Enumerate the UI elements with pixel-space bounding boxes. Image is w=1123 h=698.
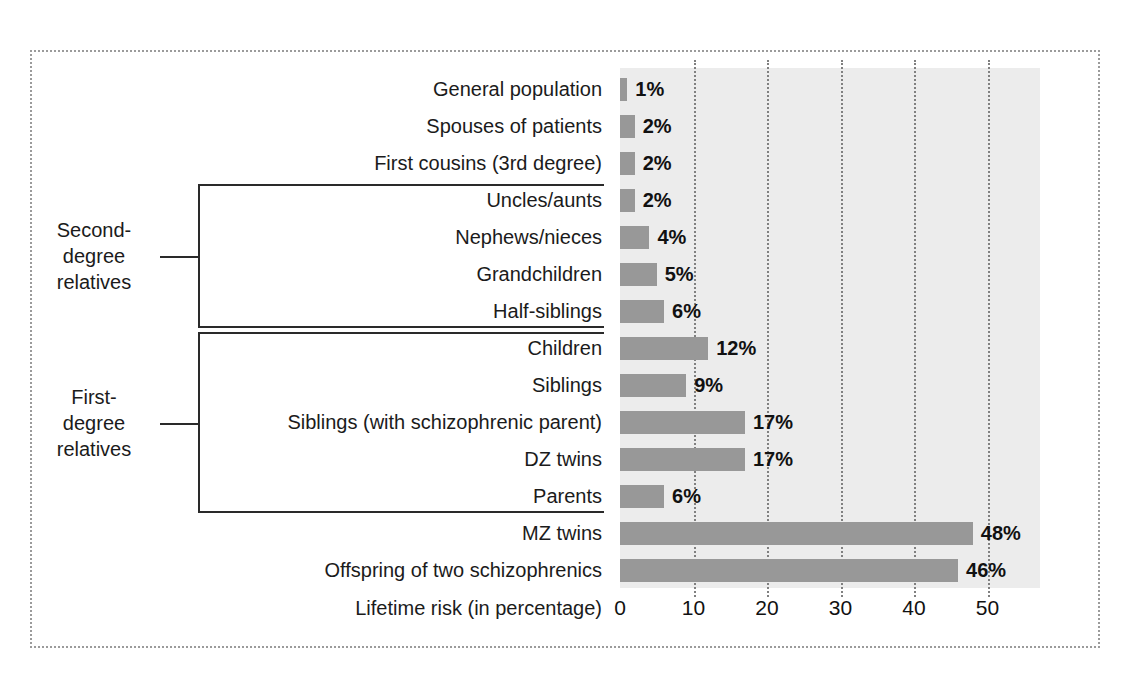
bar-value-label: 6%	[672, 478, 701, 515]
group-bracket-label-line: Second-	[34, 217, 154, 243]
bar-value-label: 46%	[966, 552, 1006, 589]
bar	[620, 78, 627, 101]
bar-value-label: 2%	[643, 108, 672, 145]
group-bracket	[198, 184, 604, 328]
x-tick-label-20: 20	[747, 588, 787, 628]
group-bracket-stem	[160, 423, 198, 425]
group-bracket-label-line: degree	[34, 243, 154, 269]
bar-value-label: 17%	[753, 441, 793, 478]
x-tick-label-0: 0	[600, 588, 640, 628]
bar	[620, 485, 664, 508]
bar	[620, 226, 649, 249]
bar-value-label: 6%	[672, 293, 701, 330]
bar	[620, 559, 958, 582]
x-axis: Lifetime risk (in percentage) 0102030405…	[0, 588, 1123, 628]
bar-value-label: 1%	[635, 71, 664, 108]
bar-value-label: 9%	[694, 367, 723, 404]
group-bracket-label-line: relatives	[34, 269, 154, 295]
x-tick-label-10: 10	[674, 588, 714, 628]
group-bracket-label-line: First-	[34, 384, 154, 410]
bar-chart: General population1%Spouses of patients2…	[0, 0, 1123, 698]
bar-value-label: 5%	[665, 256, 694, 293]
bar-value-label: 2%	[643, 145, 672, 182]
bar	[620, 152, 635, 175]
group-bracket-label: First-degreerelatives	[34, 384, 154, 462]
group-bracket-label-line: degree	[34, 410, 154, 436]
bar	[620, 263, 657, 286]
group-bracket-label: Second-degreerelatives	[34, 217, 154, 295]
bar-category-label: General population	[150, 71, 602, 108]
bar-category-label: First cousins (3rd degree)	[150, 145, 602, 182]
bar-category-label: MZ twins	[150, 515, 602, 552]
x-tick-label-40: 40	[894, 588, 934, 628]
bar-value-label: 12%	[716, 330, 756, 367]
bar	[620, 411, 745, 434]
bar	[620, 115, 635, 138]
bar-category-label: Offspring of two schizophrenics	[150, 552, 602, 589]
figure-container: General population1%Spouses of patients2…	[0, 0, 1123, 698]
group-bracket-stem	[160, 256, 198, 258]
bar	[620, 374, 686, 397]
bar	[620, 522, 973, 545]
bar-row: First cousins (3rd degree)2%	[0, 145, 1123, 182]
bar-value-label: 4%	[657, 219, 686, 256]
bar	[620, 189, 635, 212]
x-axis-title: Lifetime risk (in percentage)	[150, 588, 602, 628]
bar-row: General population1%	[0, 71, 1123, 108]
bar	[620, 300, 664, 323]
x-tick-label-30: 30	[821, 588, 861, 628]
group-bracket-label-line: relatives	[34, 436, 154, 462]
bar-category-label: Spouses of patients	[150, 108, 602, 145]
bar-value-label: 17%	[753, 404, 793, 441]
bar	[620, 448, 745, 471]
group-bracket	[198, 332, 604, 513]
x-tick-label-50: 50	[968, 588, 1008, 628]
bar-row: Spouses of patients2%	[0, 108, 1123, 145]
bar-value-label: 2%	[643, 182, 672, 219]
bar-row: Offspring of two schizophrenics46%	[0, 552, 1123, 589]
bar-value-label: 48%	[981, 515, 1021, 552]
bar-row: MZ twins48%	[0, 515, 1123, 552]
bar	[620, 337, 708, 360]
